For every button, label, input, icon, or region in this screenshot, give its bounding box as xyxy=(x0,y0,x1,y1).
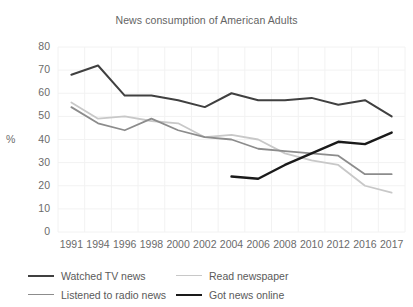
legend-swatch-got-news-online xyxy=(176,294,202,296)
x-tick-label: 2017 xyxy=(376,239,408,250)
legend-label-read-newspaper: Read newspaper xyxy=(209,270,288,282)
chart-legend: Watched TV news Read newspaper Listened … xyxy=(28,266,408,304)
y-tick-label: 60 xyxy=(24,87,50,98)
series-lines xyxy=(71,66,391,193)
legend-row-1: Watched TV news Read newspaper xyxy=(28,266,408,285)
legend-label-listened-to-radio-news: Listened to radio news xyxy=(61,289,166,301)
legend-item-listened-to-radio-news[interactable]: Listened to radio news xyxy=(28,285,166,304)
legend-label-watched-tv-news: Watched TV news xyxy=(61,270,146,282)
y-tick-label: 50 xyxy=(24,110,50,121)
legend-item-got-news-online[interactable]: Got news online xyxy=(176,285,284,304)
legend-swatch-watched-tv-news xyxy=(28,275,54,277)
y-tick-label: 80 xyxy=(24,41,50,52)
legend-swatch-listened-to-radio-news xyxy=(28,294,54,295)
chart-plot-area xyxy=(0,0,413,307)
chart-container: News consumption of American Adults % 80… xyxy=(0,0,413,307)
y-tick-label: 70 xyxy=(24,64,50,75)
y-axis-label: % xyxy=(6,133,15,145)
y-tick-label: 40 xyxy=(24,134,50,145)
legend-swatch-read-newspaper xyxy=(176,275,202,276)
legend-label-got-news-online: Got news online xyxy=(209,289,284,301)
y-tick-label: 20 xyxy=(24,180,50,191)
legend-item-watched-tv-news[interactable]: Watched TV news xyxy=(28,266,146,285)
y-tick-label: 0 xyxy=(24,226,50,237)
y-tick-label: 30 xyxy=(24,157,50,168)
legend-item-read-newspaper[interactable]: Read newspaper xyxy=(176,266,288,285)
series-line-watched-tv-news xyxy=(71,66,391,117)
legend-row-2: Listened to radio news Got news online xyxy=(28,285,408,304)
y-tick-label: 10 xyxy=(24,203,50,214)
